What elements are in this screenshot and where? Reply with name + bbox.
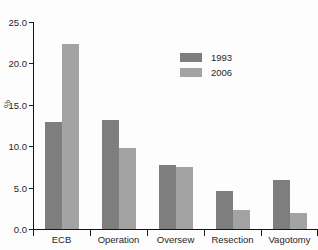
bar-1993-Resection xyxy=(216,191,233,229)
x-axis-tick-label-resection: Resection xyxy=(211,234,253,245)
y-axis-tick-marks xyxy=(0,0,33,250)
bar-chart: % 0.05.010.015.020.025.0 ECBOperationOve… xyxy=(0,0,318,250)
bar-2006-Resection xyxy=(233,210,250,229)
x-axis-tick-label-oversew: Oversew xyxy=(157,234,194,245)
bar-2006-Oversew xyxy=(176,167,193,229)
chart-legend: 19932006 xyxy=(180,51,270,81)
x-axis-tick-label-ecb: ECB xyxy=(52,234,72,245)
legend-swatch-2006 xyxy=(180,68,202,77)
x-axis-tick-label-operation: Operation xyxy=(98,234,140,245)
legend-item-2006: 2006 xyxy=(180,66,270,79)
legend-label-1993: 1993 xyxy=(211,52,232,63)
bar-1993-Operation xyxy=(102,120,119,229)
x-axis-tick-label-vagotomy: Vagotomy xyxy=(268,234,310,245)
legend-label-2006: 2006 xyxy=(211,67,232,78)
bar-2006-ECB xyxy=(62,44,79,229)
bar-1993-Vagotomy xyxy=(273,180,290,229)
legend-swatch-1993 xyxy=(180,53,202,62)
bar-2006-Vagotomy xyxy=(290,213,307,229)
x-axis-tick-labels: ECBOperationOversewResectionVagotomy xyxy=(33,234,318,250)
bar-1993-ECB xyxy=(45,122,62,229)
bar-1993-Oversew xyxy=(159,165,176,229)
legend-item-1993: 1993 xyxy=(180,51,270,64)
bar-2006-Operation xyxy=(119,148,136,229)
plot-area xyxy=(33,22,318,229)
